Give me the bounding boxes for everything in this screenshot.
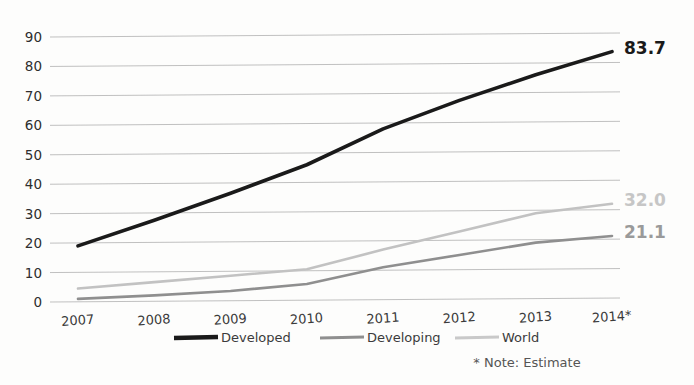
y-tick-label: 80 [25,58,42,74]
gridline [50,269,620,273]
chart-canvas: 9080706050403020100 20072008200920102011… [0,0,694,385]
gridline [50,180,620,184]
legend-label-world: World [502,330,539,345]
x-tick-label: 2014* [591,308,632,326]
x-tick-label: 2008 [137,311,171,328]
y-tick-label: 30 [25,206,42,222]
estimate-note: * Note: Estimate [473,355,580,370]
y-tick-label: 40 [25,176,42,192]
x-tick-label: 2013 [518,308,552,325]
chart-note: * Note: Estimate [473,355,580,370]
legend-swatch-developing [320,337,364,338]
y-tick-label: 50 [25,147,42,163]
y-axis-tick-labels: 9080706050403020100 [25,29,42,310]
end-value-label-world: 32.0 [624,190,666,210]
y-tick-label: 10 [25,265,42,281]
x-axis-tick-labels: 20072008200920102011201220132014* [61,308,633,329]
series-end-value-labels: 83.721.132.0 [624,38,666,242]
gridline [50,121,620,125]
y-tick-label: 60 [25,117,42,133]
y-tick-label: 20 [25,235,42,251]
y-tick-label: 0 [33,294,42,310]
series-line-developed [78,52,612,246]
gridline [50,33,620,37]
gridline [50,62,620,66]
x-tick-label: 2011 [366,310,400,327]
y-tick-label: 70 [25,88,42,104]
series-line-developing [78,236,612,299]
x-tick-label: 2012 [442,309,476,326]
legend-label-developing: Developing [367,330,441,345]
gridline [50,298,620,302]
x-tick-label: 2010 [290,310,324,327]
data-series-lines [78,52,612,299]
end-value-label-developing: 21.1 [624,222,666,242]
end-value-label-developed: 83.7 [624,38,666,58]
chart-legend: DevelopedDevelopingWorld [174,330,539,345]
line-chart: 9080706050403020100 20072008200920102011… [0,0,694,385]
x-tick-label: 2007 [61,312,95,329]
legend-swatch-world [455,337,499,338]
gridline [50,92,620,96]
y-tick-label: 90 [25,29,42,45]
x-tick-label: 2009 [213,311,247,328]
legend-label-developed: Developed [221,330,291,345]
legend-swatch-developed [174,337,218,338]
